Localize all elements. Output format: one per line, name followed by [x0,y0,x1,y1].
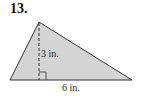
triangle-figure: 3 in. 6 in. [0,0,142,101]
triangle [10,22,132,80]
base-label: 6 in. [62,82,80,93]
diagram: 13. 3 in. 6 in. [0,0,142,101]
height-label: 3 in. [41,48,59,59]
